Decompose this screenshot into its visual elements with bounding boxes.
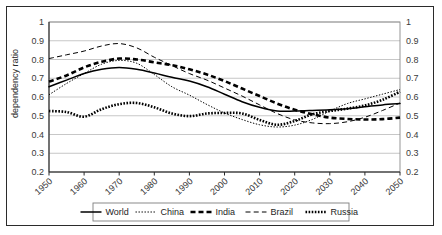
y-tick-label-right: 0.2 bbox=[406, 167, 419, 177]
series-group bbox=[49, 44, 400, 127]
y-tick-label: 0.9 bbox=[31, 36, 44, 46]
legend-item-world[interactable]: World bbox=[81, 207, 129, 217]
chart-screenshot: 10.90.80.70.60.50.40.30.210.90.80.70.60.… bbox=[0, 0, 442, 235]
y-axis-title: dependency ratio bbox=[10, 49, 20, 118]
legend-label: Russia bbox=[331, 207, 359, 217]
y-axis-title-text: dependency ratio bbox=[10, 49, 20, 118]
legend-label: China bbox=[161, 207, 185, 217]
y-tick-label-right: 0.4 bbox=[406, 130, 419, 140]
legend-label: Brazil bbox=[271, 207, 294, 217]
y-tick-label: 0.2 bbox=[31, 167, 44, 177]
x-tick-label: 2030 bbox=[314, 176, 336, 197]
y-tick-label: 0.7 bbox=[31, 73, 44, 83]
x-tick-label: 2020 bbox=[278, 176, 300, 197]
dependency-ratio-line-chart: 10.90.80.70.60.50.40.30.210.90.80.70.60.… bbox=[0, 0, 442, 235]
x-tick-label: 1950 bbox=[33, 176, 55, 197]
x-tick-label: 2050 bbox=[384, 176, 406, 197]
x-tick-label: 1970 bbox=[103, 176, 125, 197]
y-tick-label: 0.6 bbox=[31, 92, 44, 102]
y-tick-label: 0.3 bbox=[31, 148, 44, 158]
y-tick-label-right: 0.6 bbox=[406, 92, 419, 102]
chart-legend: WorldChinaIndiaBrazilRussia bbox=[81, 203, 359, 221]
y-tick-label: 0.8 bbox=[31, 55, 44, 65]
gridlines bbox=[49, 22, 400, 172]
y-tick-label-right: 0.9 bbox=[406, 36, 419, 46]
y-tick-label: 1 bbox=[39, 17, 44, 27]
legend-label: World bbox=[106, 207, 129, 217]
x-tick-label: 2040 bbox=[349, 176, 371, 197]
y-tick-label-right: 0.5 bbox=[406, 111, 419, 121]
y-axis-labels-left: 10.90.80.70.60.50.40.30.2 bbox=[31, 17, 44, 177]
x-tick-label: 1990 bbox=[173, 176, 195, 197]
y-axis-labels-right: 10.90.80.70.60.50.40.30.2 bbox=[406, 17, 419, 177]
y-tick-label-right: 0.8 bbox=[406, 55, 419, 65]
x-tick-label: 1980 bbox=[138, 176, 160, 197]
series-line-india bbox=[49, 58, 400, 119]
series-line-world bbox=[49, 67, 400, 111]
legend-label: India bbox=[216, 207, 236, 217]
y-tick-label-right: 1 bbox=[406, 17, 411, 27]
y-tick-label-right: 0.7 bbox=[406, 73, 419, 83]
x-axis-labels: 1950196019701980199020002010202020302040… bbox=[33, 172, 406, 197]
x-tick-label: 2010 bbox=[243, 176, 265, 197]
y-tick-label-right: 0.3 bbox=[406, 148, 419, 158]
y-tick-label: 0.5 bbox=[31, 111, 44, 121]
y-tick-label: 0.4 bbox=[31, 130, 44, 140]
x-tick-label: 1960 bbox=[68, 176, 90, 197]
x-tick-label: 2000 bbox=[208, 176, 230, 197]
